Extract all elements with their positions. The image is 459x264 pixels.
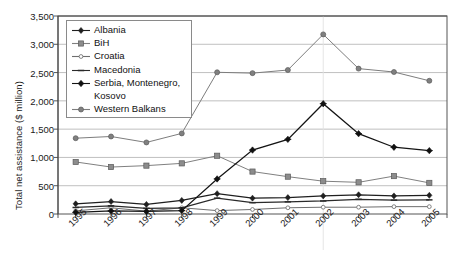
legend-marker-icon — [70, 102, 92, 115]
legend-entry: Serbia, Montenegro, — [67, 76, 191, 89]
data-point-marker — [427, 192, 432, 198]
data-point-marker — [356, 192, 361, 198]
data-point-marker — [78, 28, 83, 34]
data-point-marker — [391, 173, 396, 178]
data-point-marker — [144, 163, 149, 168]
data-point-marker — [215, 70, 220, 75]
series-albania — [73, 191, 432, 208]
legend-marker-icon — [70, 63, 92, 76]
legend-label: Macedonia — [92, 64, 140, 75]
data-point-marker — [215, 191, 220, 197]
data-point-marker — [79, 55, 83, 59]
legend-entry: Croatia — [67, 49, 191, 62]
data-point-marker — [144, 201, 149, 207]
data-point-marker — [356, 180, 361, 185]
data-point-marker — [251, 208, 255, 212]
legend-entry: Western Balkans — [67, 102, 191, 115]
data-point-marker — [144, 140, 149, 145]
data-point-marker — [215, 153, 220, 158]
data-point-marker — [427, 205, 431, 209]
legend-label: Albania — [92, 24, 126, 35]
data-point-marker — [78, 41, 83, 46]
data-point-marker — [357, 205, 361, 209]
data-point-marker — [79, 107, 84, 112]
legend-marker-icon — [70, 36, 92, 49]
series-bih — [73, 153, 432, 185]
data-point-marker — [250, 169, 255, 174]
data-point-marker — [356, 66, 361, 71]
legend-entry: Kosovo — [67, 89, 191, 102]
data-point-marker — [285, 174, 290, 179]
data-point-marker — [250, 195, 255, 201]
data-point-marker — [179, 197, 184, 203]
data-point-marker — [215, 209, 219, 213]
legend-marker-icon — [70, 23, 92, 36]
data-point-marker — [285, 195, 290, 201]
data-point-marker — [285, 68, 290, 73]
data-point-marker — [391, 70, 396, 75]
legend-marker-icon — [70, 49, 92, 62]
data-point-marker — [321, 32, 326, 37]
data-point-marker — [108, 199, 113, 205]
legend-label: Kosovo — [70, 90, 126, 101]
data-point-marker — [321, 179, 326, 184]
data-point-marker — [179, 161, 184, 166]
legend-entry: Macedonia — [67, 63, 191, 76]
data-point-marker — [73, 136, 78, 141]
legend-label: Croatia — [92, 50, 125, 61]
data-point-marker — [179, 131, 184, 136]
legend-marker-icon — [70, 76, 92, 89]
data-point-marker — [392, 205, 396, 209]
data-point-marker — [73, 159, 78, 164]
data-point-marker — [427, 78, 432, 83]
legend-entry: Albania — [67, 23, 191, 36]
series-croatia — [74, 205, 431, 213]
data-point-marker — [321, 205, 325, 209]
legend-label: Western Balkans — [92, 103, 166, 114]
data-point-marker — [286, 206, 290, 210]
chart-legend: AlbaniaBiHCroatiaMacedoniaSerbia, Monten… — [66, 20, 192, 118]
data-point-marker — [250, 71, 255, 76]
legend-label: Serbia, Montenegro, — [92, 77, 180, 88]
legend-label: BiH — [92, 37, 109, 48]
legend-entry: BiH — [67, 36, 191, 49]
data-point-marker — [109, 134, 114, 139]
data-point-marker — [108, 164, 113, 169]
data-point-marker — [391, 193, 396, 199]
data-point-marker — [73, 201, 78, 207]
data-point-marker — [321, 193, 326, 199]
chart-container: Total net assistance ($ million) 05001,0… — [0, 0, 459, 264]
data-point-marker — [427, 180, 432, 185]
